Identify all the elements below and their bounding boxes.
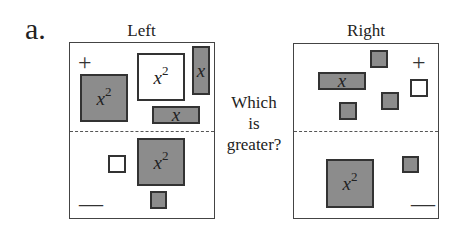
right-unit-tile-negative — [339, 102, 357, 120]
left-minus-sign: — — [79, 193, 103, 213]
tile-label: x2 — [154, 65, 169, 89]
question-line: greater? — [219, 134, 289, 155]
left-x2-tile-negative: x2 — [80, 74, 128, 122]
left-x-tile-vertical: x — [192, 46, 210, 95]
right-unit-tile-negative-bottom — [402, 156, 419, 173]
tile-label: x — [338, 70, 346, 92]
question-line: Which — [219, 92, 289, 113]
tile-label: x2 — [97, 86, 112, 110]
tile-label: x2 — [154, 150, 169, 174]
right-unit-tile-positive — [410, 79, 428, 97]
right-x2-tile-negative: x2 — [326, 159, 374, 208]
right-unit-tile-negative — [370, 50, 388, 68]
right-minus-sign: — — [411, 193, 435, 213]
left-x-tile-horizontal: x — [152, 106, 200, 124]
left-plus-sign: + — [78, 52, 92, 72]
right-panel-title: Right — [293, 22, 439, 40]
left-unit-tile-negative — [150, 191, 167, 209]
question-line: is — [219, 113, 289, 134]
left-x2-tile-positive: x2 — [137, 53, 185, 101]
left-x2-tile-negative-bottom: x2 — [137, 138, 185, 186]
right-divider — [294, 131, 438, 132]
right-plus-sign: + — [412, 52, 426, 72]
tile-label: x — [172, 104, 180, 126]
question-text: Which is greater? — [219, 92, 289, 155]
tile-label: x2 — [343, 171, 358, 195]
left-divider — [70, 131, 214, 132]
tile-label: x — [197, 60, 205, 82]
right-unit-tile-negative — [381, 92, 399, 110]
left-unit-tile-positive — [108, 155, 126, 173]
figure-label: a. — [25, 14, 46, 44]
left-panel-title: Left — [69, 22, 214, 40]
right-x-tile-horizontal: x — [318, 72, 366, 90]
